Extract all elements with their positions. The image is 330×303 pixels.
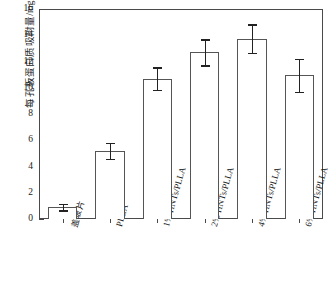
chart-figure: 每孔板蛋白质吸附量/mg 0246810121416 盖玻片PLLA1% HNT…	[0, 0, 330, 303]
error-bar-cap-lower	[248, 53, 257, 55]
bar	[237, 39, 266, 219]
error-bar-cap-upper	[201, 39, 210, 41]
error-bar-cap-lower	[295, 92, 304, 94]
error-bar-cap-lower	[153, 90, 162, 92]
x-tick	[110, 219, 111, 223]
error-bar-cap-lower	[106, 159, 115, 161]
error-bar-line	[252, 24, 253, 53]
error-bar-cap-upper	[59, 204, 68, 206]
error-bar-cap-lower	[201, 65, 210, 67]
x-tick	[252, 219, 253, 223]
x-tick	[205, 219, 206, 223]
bar	[95, 151, 124, 219]
bar	[143, 79, 172, 219]
x-tick	[157, 219, 158, 223]
bar	[190, 52, 219, 219]
error-bar-cap-upper	[295, 59, 304, 61]
x-tick	[63, 219, 64, 223]
error-bar-cap-upper	[248, 24, 257, 26]
error-bar-line	[157, 67, 158, 89]
error-bar-line	[205, 39, 206, 65]
error-bar-line	[110, 143, 111, 159]
bar	[285, 75, 314, 219]
error-bar-cap-lower	[59, 210, 68, 212]
error-bar-cap-upper	[153, 67, 162, 69]
x-tick	[299, 219, 300, 223]
error-bar-line	[299, 59, 300, 92]
error-bar-cap-upper	[106, 143, 115, 145]
